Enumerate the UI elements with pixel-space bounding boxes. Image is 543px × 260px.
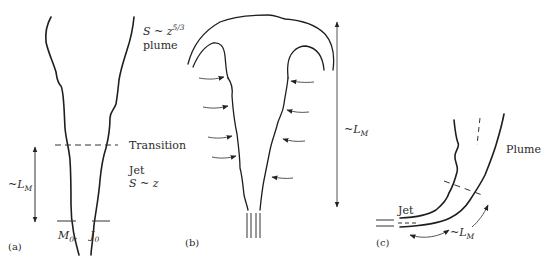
jet-label: Jet: [128, 164, 145, 177]
bent-plume-outer-boundary: [400, 114, 504, 227]
plume-scaling-label: S ~ z5/3: [143, 23, 185, 38]
panel-a: S ~ z5/3 plume Transition Jet S ~ z ~LM …: [8, 17, 186, 255]
entrainment-arrow: [199, 77, 224, 79]
length-arrow-c-upper: [472, 205, 488, 227]
jet-label-c: Jet: [397, 204, 414, 217]
source-buoyancy-label: J0: [88, 229, 99, 244]
transition-label: Transition: [129, 139, 186, 152]
source-momentum-label: M0,: [57, 229, 78, 244]
entrainment-arrow: [212, 156, 236, 158]
plume-left-boundary: [46, 17, 79, 255]
entrainment-arrow: [287, 110, 309, 112]
plume-label: plume: [143, 39, 178, 52]
panel-a-label: (a): [8, 241, 22, 252]
length-label-a: ~LM: [8, 178, 33, 193]
transition-line-c: [444, 181, 485, 196]
entrainment-arrow: [203, 106, 228, 108]
plume-centerline: [477, 118, 480, 145]
outer-cap: [188, 15, 334, 70]
entrainment-arrow: [291, 81, 314, 82]
entrainment-arrow: [208, 136, 232, 138]
panel-b-label: (b): [185, 237, 199, 248]
length-arrow-c: [410, 230, 449, 237]
length-label-c: ~LM: [450, 226, 475, 241]
plume-right-boundary-b: [260, 78, 288, 210]
panel-c: Jet Plume ~LM (c): [376, 114, 541, 248]
plume-right-boundary: [91, 17, 134, 255]
plume-left-boundary-b: [228, 78, 248, 210]
figure-canvas: S ~ z5/3 plume Transition Jet S ~ z ~LM …: [0, 0, 543, 260]
panel-c-label: (c): [376, 237, 390, 248]
inner-right-vortex: [288, 46, 324, 78]
entrainment-arrow: [283, 139, 305, 141]
entrainment-arrow: [272, 177, 293, 178]
length-label-b: ~LM: [344, 123, 369, 138]
plume-label-c: Plume: [506, 143, 541, 156]
inner-left-vortex: [193, 43, 228, 78]
panel-b: ~LM (b): [185, 15, 369, 248]
jet-scaling-label: S ~ z: [129, 177, 159, 190]
